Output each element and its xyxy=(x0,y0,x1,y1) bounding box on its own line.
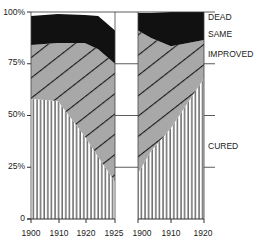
label-improved: IMPROVED xyxy=(208,49,253,59)
left-panel xyxy=(31,12,115,219)
x-tick-right-1900: 1900 xyxy=(133,228,152,238)
y-tick-100: 100% xyxy=(3,7,25,17)
x-tick-left-1900: 1900 xyxy=(22,228,41,238)
label-same: SAME xyxy=(208,29,232,39)
x-tick-left-1925: 1925 xyxy=(105,228,124,238)
y-tick-50: 50% xyxy=(8,109,25,119)
x-tick-right-1920: 1920 xyxy=(194,228,213,238)
right-panel xyxy=(138,12,204,219)
x-tick-left-1910: 1910 xyxy=(50,228,69,238)
y-tick-0: 0 xyxy=(20,213,25,223)
y-tick-25: 25% xyxy=(8,161,25,171)
chart-canvas: 100% 75% 50% 25% 0 1900 1910 1920 1925 1… xyxy=(0,0,256,245)
y-tick-75: 75% xyxy=(8,57,25,67)
x-tick-left-1920: 1920 xyxy=(77,228,96,238)
x-tick-right-1910: 1910 xyxy=(162,228,181,238)
label-dead: DEAD xyxy=(208,12,232,22)
label-cured: CURED xyxy=(208,141,238,151)
